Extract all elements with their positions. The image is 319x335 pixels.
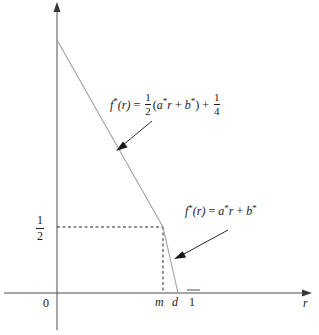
lower-branch-line — [163, 227, 178, 293]
upper-branch-formula: f*(r) = 1 2 (a*r + b*) + 1 4 — [110, 92, 222, 117]
formula-plus-sign: + — [233, 205, 246, 217]
formula-plus-sign: + — [172, 99, 185, 111]
y-axis-arrowhead — [53, 2, 60, 12]
lower-branch-formula: f*(r) = a*r + b* — [185, 205, 257, 217]
upper-branch-line — [57, 40, 163, 227]
formula-a-star: * — [163, 97, 168, 106]
x-tick-label-d: d — [172, 296, 178, 308]
fraction-denominator: 4 — [214, 106, 220, 117]
fraction-numerator: 1 — [145, 92, 151, 103]
one-half-fraction: 1 2 — [36, 214, 44, 242]
formula-argument: (r) — [118, 99, 131, 111]
y-tick-label-one-half: 1 2 — [36, 214, 44, 242]
fraction-numerator: 1 — [36, 214, 44, 227]
formula-b-star: * — [252, 204, 257, 213]
x-tick-label-m: m — [155, 296, 164, 308]
upper-formula-leader-line — [123, 121, 152, 145]
x-tick-label-one: 1 — [189, 296, 195, 308]
fraction-denominator: 2 — [36, 230, 44, 243]
formula-one-half-fraction: 1 2 — [145, 92, 151, 117]
x-axis-label: r — [303, 297, 308, 309]
formula-equals-sign: = — [206, 205, 219, 217]
formula-argument: (r) — [193, 205, 206, 217]
figure-container: f*(r) = 1 2 (a*r + b*) + 1 4 f*(r) = a*r… — [0, 0, 319, 335]
plot-canvas — [0, 0, 319, 335]
formula-plus-sign-2: + — [199, 99, 212, 111]
formula-one-quarter-fraction: 1 4 — [214, 92, 220, 117]
lower-formula-arrowhead — [174, 251, 186, 259]
formula-star-superscript: * — [188, 204, 193, 213]
x-tick-label-origin: 0 — [43, 297, 49, 309]
fraction-denominator: 2 — [145, 106, 151, 117]
formula-b-star: * — [191, 97, 196, 106]
formula-equals-sign: = — [131, 99, 144, 111]
fraction-numerator: 1 — [214, 92, 220, 103]
formula-a-star: * — [224, 204, 229, 213]
formula-star-superscript: * — [113, 97, 118, 106]
lower-formula-leader-line — [182, 230, 228, 255]
